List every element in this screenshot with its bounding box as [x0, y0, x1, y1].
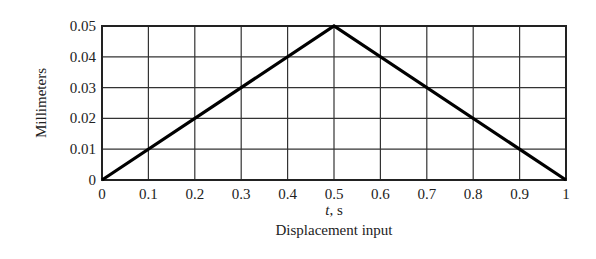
y-axis-label: Millimeters	[33, 68, 49, 138]
x-tick-label: 0.1	[139, 186, 158, 202]
grid-lines	[102, 26, 566, 180]
y-tick-label: 0.04	[70, 49, 97, 65]
y-tick-labels: 00.010.020.030.040.05	[70, 18, 97, 188]
x-tick-label: 0.4	[278, 186, 297, 202]
x-axis-label-unit: , s	[329, 202, 343, 218]
x-tick-label: 0.8	[464, 186, 483, 202]
displacement-chart: 00.010.020.030.040.05 00.10.20.30.40.50.…	[0, 0, 596, 259]
chart-caption: Displacement input	[275, 222, 393, 238]
x-tick-label: 0.6	[371, 186, 390, 202]
y-tick-label: 0.01	[70, 141, 96, 157]
x-tick-label: 1	[562, 186, 570, 202]
x-tick-label: 0.5	[325, 186, 344, 202]
x-axis-label: t, s	[325, 202, 343, 218]
x-tick-label: 0.3	[232, 186, 251, 202]
x-tick-label: 0.9	[510, 186, 529, 202]
y-tick-label: 0.05	[70, 18, 96, 34]
y-tick-label: 0	[89, 172, 97, 188]
x-tick-label: 0	[98, 186, 106, 202]
x-tick-labels: 00.10.20.30.40.50.60.70.80.91	[98, 186, 570, 202]
y-tick-label: 0.03	[70, 80, 96, 96]
x-tick-label: 0.7	[417, 186, 436, 202]
y-tick-label: 0.02	[70, 110, 96, 126]
x-tick-label: 0.2	[185, 186, 204, 202]
